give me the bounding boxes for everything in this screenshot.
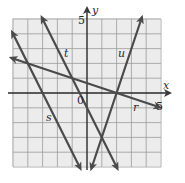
grid-background (12, 18, 160, 166)
x-axis-label: x (163, 79, 170, 92)
y-tick-5: 5 (78, 14, 85, 27)
line-label-s: s (46, 111, 52, 124)
coordinate-plane: y x 5 5 0 r s t u (0, 0, 185, 183)
x-tick-5: 5 (156, 100, 163, 113)
line-label-t: t (64, 47, 69, 60)
line-label-r: r (133, 101, 139, 114)
origin-label: 0 (77, 94, 84, 107)
line-label-u: u (118, 47, 125, 60)
y-axis-label: y (91, 4, 99, 17)
